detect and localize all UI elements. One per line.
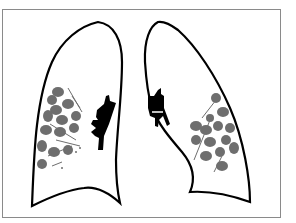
right-hilum	[91, 95, 116, 150]
right-lung-opacities	[37, 87, 82, 169]
left-lung-opacities	[190, 93, 239, 172]
lungs-diagram	[0, 0, 296, 223]
